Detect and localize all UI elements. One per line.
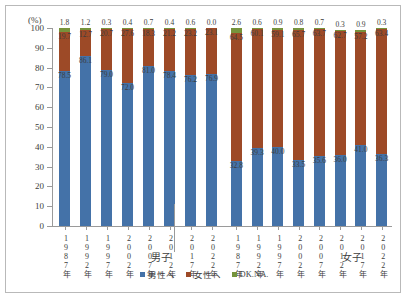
legend-label: DK.NA. [240,269,269,279]
bar-segment-female [252,29,263,148]
bar-value-male: 40.0 [264,148,292,156]
bar-segment-male [355,145,366,226]
x-tick [170,226,171,230]
bar-segment-male [80,56,91,226]
bar-segment-male [164,71,175,226]
y-tick [47,167,52,168]
y-tick-label: 0 [20,222,44,231]
y-tick [47,87,52,88]
x-tick [107,226,108,230]
legend-swatch-icon [140,272,145,277]
y-tick-label: 90 [20,44,44,53]
x-tick [257,226,258,230]
bar-column[interactable] [143,28,154,226]
bar-column[interactable] [272,28,283,226]
group-label-male: 男子 [131,252,191,263]
y-tick-label: 10 [20,202,44,211]
bar-value-male: 36.0 [326,156,354,164]
y-tick [47,147,52,148]
y-tick [47,107,52,108]
bar-segment-female [231,33,242,161]
legend-item-male[interactable]: 男性へ [140,268,175,280]
x-tick [128,226,129,230]
bar-segment-male [376,154,387,226]
bar-column[interactable] [122,28,133,226]
x-tick [236,226,237,230]
y-tick-label: 80 [20,64,44,73]
legend-label: 男性へ [148,268,175,280]
bar-value-dkna: 0.0 [198,19,226,27]
x-tick [212,226,213,230]
legend-label: 女性へ [194,268,221,280]
bar-column[interactable] [164,28,175,226]
bar-segment-female [335,31,346,155]
bar-value-male: 41.0 [347,146,375,154]
bar-column[interactable] [314,28,325,226]
bar-segment-male [335,155,346,226]
chart-legend: 男性へ女性へDK.NA. [6,268,402,280]
bar-value-male: 76.9 [198,75,226,83]
bar-value-male: 86.1 [72,57,100,65]
bar-column[interactable] [231,28,242,226]
bar-value-male: 72.0 [114,84,142,92]
bar-segment-male [272,147,283,226]
y-tick [47,186,52,187]
bar-segment-female [355,32,366,145]
bar-column[interactable] [59,28,70,226]
y-tick-label: 30 [20,163,44,172]
bar-value-male: 79.0 [93,71,121,79]
y-tick [47,226,52,227]
bar-column[interactable] [185,28,196,226]
legend-swatch-icon [186,272,191,277]
y-tick-label: 40 [20,143,44,152]
y-tick [47,206,52,207]
bar-segment-male [314,156,325,226]
bar-column[interactable] [335,28,346,226]
bar-column[interactable] [355,28,366,226]
y-tick [47,48,52,49]
plot-area: 1009080706050403020100 78.519.71.886.112… [52,28,392,226]
y-tick-label: 100 [20,24,44,33]
x-tick [299,226,300,230]
bar-column[interactable] [101,28,112,226]
bar-value-male: 78.5 [51,72,79,80]
bar-segment-male [293,160,304,226]
y-tick [47,68,52,69]
x-tick [382,226,383,230]
bar-value-male: 32.8 [222,162,250,170]
bar-column[interactable] [252,28,263,226]
bar-segment-female [376,29,387,155]
x-tick [65,226,66,230]
x-tick [340,226,341,230]
x-tick [191,226,192,230]
y-tick-label: 60 [20,103,44,112]
bar-segment-male [185,75,196,226]
y-tick-label: 20 [20,182,44,191]
bar-value-female: 63.4 [368,30,396,38]
bar-column[interactable] [293,28,304,226]
legend-item-dknа[interactable]: DK.NA. [232,269,269,279]
x-tick [319,226,320,230]
group-divider [174,204,175,252]
legend-swatch-icon [232,272,237,277]
bar-segment-female [314,29,325,155]
x-tick [361,226,362,230]
bar-segment-male [231,161,242,226]
bar-segment-male [252,148,263,226]
legend-item-female[interactable]: 女性へ [186,268,221,280]
y-tick [47,28,52,29]
bar-segment-male [122,83,133,226]
y-tick-label: 70 [20,83,44,92]
bar-segment-male [143,66,154,226]
y-tick [47,127,52,128]
y-tick-label: 50 [20,123,44,132]
group-label-female: 女子 [322,252,382,263]
bar-segment-male [206,74,217,226]
chart-frame: (%) 1009080706050403020100 78.519.71.886… [5,5,401,293]
bar-column[interactable] [376,28,387,226]
x-tick [86,226,87,230]
bar-segment-male [59,71,70,226]
bar-segment-male [101,70,112,226]
bar-column[interactable] [206,28,217,226]
bar-value-female: 23.1 [198,29,226,37]
